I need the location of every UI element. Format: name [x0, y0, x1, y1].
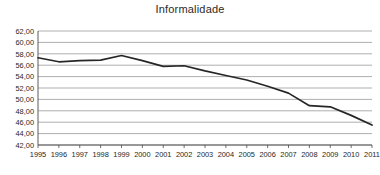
- x-axis-tick-label: 1997: [72, 150, 88, 159]
- chart-figure: Informalidade 42,0044,0046,0048,0050,005…: [0, 0, 380, 175]
- x-axis-tick-label: 1996: [51, 150, 67, 159]
- x-axis-tick-label: 2010: [343, 150, 359, 159]
- gridlines-group: [38, 31, 372, 145]
- x-axis-tick-label: 2008: [301, 150, 317, 159]
- y-axis-tick-label: 62,00: [16, 27, 35, 36]
- x-axis-tick-label: 2006: [259, 150, 275, 159]
- x-axis-tick-label: 1999: [113, 150, 129, 159]
- x-axis-tick-label: 1995: [30, 150, 46, 159]
- x-axis-tick-label: 2011: [364, 150, 380, 159]
- y-axis-tick-label: 58,00: [16, 50, 35, 59]
- x-axis-tick-label: 2001: [155, 150, 171, 159]
- line-chart-plot: 42,0044,0046,0048,0050,0052,0054,0056,00…: [0, 0, 380, 175]
- x-axis-tick-label: 1998: [92, 150, 108, 159]
- x-axis-tick-label: 2003: [197, 150, 213, 159]
- y-axis-tick-label: 60,00: [16, 38, 35, 47]
- x-axis-tick-label: 2002: [176, 150, 192, 159]
- y-axis-tick-labels: 42,0044,0046,0048,0050,0052,0054,0056,00…: [16, 27, 35, 150]
- y-axis-tick-label: 52,00: [16, 84, 35, 93]
- x-axis-tick-label: 2007: [280, 150, 296, 159]
- y-axis-tick-label: 48,00: [16, 107, 35, 116]
- y-axis-tick-label: 42,00: [16, 141, 35, 150]
- y-axis-tick-label: 54,00: [16, 72, 35, 81]
- y-axis-tick-label: 44,00: [16, 129, 35, 138]
- x-axis-tick-labels: 1995199619971998199920002001200220032004…: [30, 150, 380, 159]
- y-axis-tick-label: 46,00: [16, 118, 35, 127]
- y-axis-tick-label: 56,00: [16, 61, 35, 70]
- x-axis-tick-label: 2009: [322, 150, 338, 159]
- x-axis-tick-label: 2005: [239, 150, 255, 159]
- data-series-line: [38, 56, 372, 126]
- y-axis-tick-label: 50,00: [16, 95, 35, 104]
- x-axis-tick-label: 2004: [218, 150, 234, 159]
- x-axis-tick-label: 2000: [134, 150, 150, 159]
